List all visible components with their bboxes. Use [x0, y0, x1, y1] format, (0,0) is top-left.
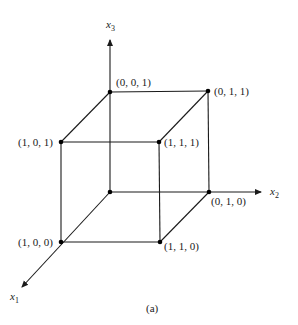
x1-axis-label: x1 — [9, 290, 19, 305]
vertex-010 — [207, 190, 212, 195]
edge-001-011 — [110, 91, 208, 92]
label-110: (1, 1, 0) — [164, 240, 199, 253]
label-001: (0, 0, 1) — [116, 76, 151, 89]
label-011: (0, 1, 1) — [214, 85, 249, 98]
edge-010-110 — [160, 192, 209, 242]
vertex-011 — [206, 89, 211, 94]
label-111: (1, 1, 1) — [164, 136, 199, 149]
x2-axis-label: x2 — [269, 185, 279, 200]
edge-011-010 — [208, 91, 209, 192]
vertex-001 — [108, 90, 113, 95]
figure-caption: (a) — [146, 302, 159, 315]
label-101: (1, 0, 1) — [18, 136, 53, 149]
vertex-111 — [157, 140, 162, 145]
label-010: (0, 1, 0) — [211, 195, 246, 208]
cube-diagram: (0, 0, 1) (0, 1, 1) (1, 0, 1) (1, 1, 1) … — [0, 0, 298, 325]
vertex-101 — [59, 140, 64, 145]
vertex-100 — [59, 240, 64, 245]
edge-011-111 — [159, 91, 208, 142]
x3-axis-label: x3 — [105, 18, 115, 33]
edge-001-101 — [61, 92, 110, 142]
vertex-110 — [158, 240, 163, 245]
cube-figure: (0, 0, 1) (0, 1, 1) (1, 0, 1) (1, 1, 1) … — [0, 0, 298, 325]
vertex-000 — [108, 190, 113, 195]
edge-111-110 — [159, 142, 160, 242]
label-100: (1, 0, 0) — [18, 236, 53, 249]
